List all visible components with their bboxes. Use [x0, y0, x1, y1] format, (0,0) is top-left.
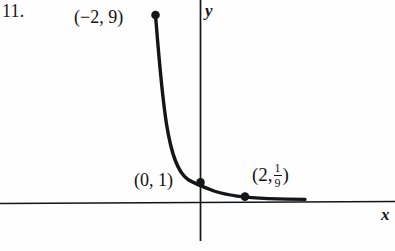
y-axis-label: y [205, 1, 213, 21]
point-label-minus2-9: (−2, 9) [74, 7, 123, 28]
point-label-open: (2, [252, 164, 273, 185]
graph-figure: 11. y x (−2, 9) (0, 1) (2,19) [0, 0, 395, 251]
marked-point-2 [196, 178, 205, 187]
point-label-close: ) [283, 164, 289, 185]
fraction-one-ninth: 19 [274, 162, 282, 189]
coordinate-plane [0, 0, 395, 251]
marked-point-3 [241, 192, 250, 201]
x-axis-label: x [381, 205, 390, 225]
point-label-0-1: (0, 1) [134, 170, 173, 191]
point-label-2-one-ninth: (2,19) [252, 163, 289, 190]
marked-point-1 [151, 11, 160, 20]
fraction-numerator: 1 [274, 162, 282, 174]
x-axis [0, 202, 395, 204]
fraction-denominator: 9 [274, 177, 282, 189]
